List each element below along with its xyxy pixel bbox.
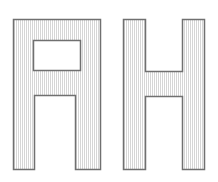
block-letter-a-counter	[34, 41, 81, 71]
figure-canvas	[0, 0, 218, 182]
letters-figure	[0, 0, 218, 182]
